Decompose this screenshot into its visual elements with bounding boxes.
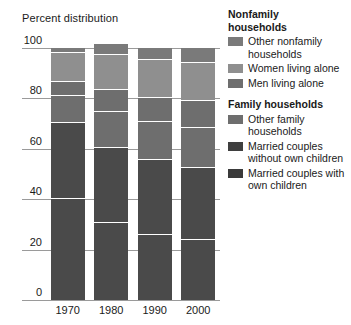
bar-segment: [138, 121, 172, 158]
stacked-bar-chart: Percent distribution 020406080100 197019…: [0, 0, 351, 325]
legend-item[interactable]: Other nonfamily households: [228, 35, 351, 60]
bar-segment: [94, 89, 128, 111]
y-axis-tick-labels: 020406080100: [0, 48, 42, 300]
chart-legend: NonfamilyhouseholdsOther nonfamily house…: [228, 8, 351, 194]
y-tick-label-100: 100: [0, 35, 42, 46]
bar-segment: [181, 167, 215, 239]
bar-segment: [51, 48, 85, 52]
legend-group-title: Family households: [228, 98, 351, 111]
legend-item[interactable]: Other family households: [228, 113, 351, 138]
legend-item-label: Other nonfamily households: [248, 35, 351, 60]
bar-segment: [181, 100, 215, 127]
bar-segment: [94, 222, 128, 300]
legend-swatch-icon: [228, 64, 243, 73]
bar-segment: [138, 234, 172, 300]
legend-item[interactable]: Married couples with own children: [228, 167, 351, 192]
bar-segment: [94, 147, 128, 222]
legend-swatch-icon: [228, 115, 243, 124]
legend-swatch-icon: [228, 37, 243, 46]
bar-segment: [181, 127, 215, 167]
legend-item-label: Men living alone: [248, 77, 324, 90]
legend-group-title: Nonfamilyhouseholds: [228, 8, 351, 33]
y-tick-label-40: 40: [0, 186, 42, 197]
legend-item-label: Other family households: [248, 113, 351, 138]
legend-item[interactable]: Married couples without own children: [228, 140, 351, 165]
y-axis-title: Percent distribution: [22, 12, 118, 24]
y-tick-label-20: 20: [0, 237, 42, 248]
bar-segment: [94, 44, 128, 53]
bar-segment: [51, 198, 85, 300]
bar-segment: [94, 111, 128, 147]
bar-segment: [51, 95, 85, 122]
y-tick-label-60: 60: [0, 136, 42, 147]
bar-segment: [181, 62, 215, 99]
legend-item-label: Married couples with own children: [248, 167, 351, 192]
legend-swatch-icon: [228, 169, 243, 178]
legend-group-title-line2: households: [228, 21, 351, 34]
legend-group-spacer: [228, 91, 351, 98]
gridline-0: [22, 300, 220, 301]
bar-segment: [138, 159, 172, 234]
bar-segment: [181, 48, 215, 62]
bar-segment: [138, 59, 172, 97]
bar-segment: [181, 239, 215, 300]
legend-swatch-icon: [228, 142, 243, 151]
bar-segment: [51, 122, 85, 198]
legend-item-label: Women living alone: [248, 62, 339, 75]
x-tick-label-2000: 2000: [171, 304, 225, 316]
bar-segment: [51, 81, 85, 95]
legend-item-label: Married couples without own children: [248, 140, 351, 165]
bar-segment: [51, 52, 85, 81]
bar-segment: [94, 54, 128, 89]
legend-swatch-icon: [228, 79, 243, 88]
plot-area: 1970198019902000: [46, 48, 220, 300]
legend-item[interactable]: Men living alone: [228, 77, 351, 90]
bar-segment: [138, 97, 172, 121]
legend-item[interactable]: Women living alone: [228, 62, 351, 75]
y-tick-label-0: 0: [0, 287, 42, 298]
y-tick-label-80: 80: [0, 85, 42, 96]
bar-segment: [138, 48, 172, 60]
